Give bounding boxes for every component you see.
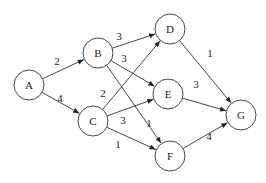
node-label: D — [166, 23, 174, 35]
edge-weight-label: 4 — [206, 130, 212, 142]
edge-a-b — [43, 60, 84, 79]
node-label: B — [94, 47, 101, 59]
node-label: E — [165, 88, 172, 100]
nodes-group: ABCDEFG — [14, 14, 256, 171]
edges-group: 24331231134 — [42, 30, 231, 150]
node-label: F — [167, 150, 173, 162]
edge-weight-label: 2 — [100, 87, 106, 99]
node-d: D — [155, 14, 185, 44]
edge-weight-label: 3 — [121, 52, 127, 64]
node-c: C — [78, 106, 108, 136]
edge-weight-label: 1 — [115, 138, 121, 150]
edge-b-f — [107, 65, 162, 143]
node-e: E — [153, 79, 183, 109]
edge-weight-label: 1 — [207, 47, 213, 59]
node-b: B — [83, 38, 113, 68]
edge-c-f — [107, 127, 156, 149]
node-g: G — [226, 100, 256, 130]
node-f: F — [155, 141, 185, 171]
edge-weight-label: 2 — [54, 55, 60, 67]
edge-c-e — [107, 99, 153, 116]
edge-d-g — [180, 41, 232, 103]
node-label: C — [89, 115, 96, 127]
edge-weight-label: 3 — [193, 78, 199, 90]
node-a: A — [14, 70, 44, 100]
graph-diagram: 24331231134 ABCDEFG — [0, 0, 266, 183]
edge-e-g — [182, 98, 226, 111]
edge-weight-label: 3 — [120, 114, 126, 126]
edge-weight-label: 4 — [57, 92, 63, 104]
edge-weight-label: 3 — [116, 30, 122, 42]
node-label: A — [25, 79, 33, 91]
node-label: G — [237, 109, 245, 121]
edge-weight-label: 1 — [146, 117, 152, 129]
